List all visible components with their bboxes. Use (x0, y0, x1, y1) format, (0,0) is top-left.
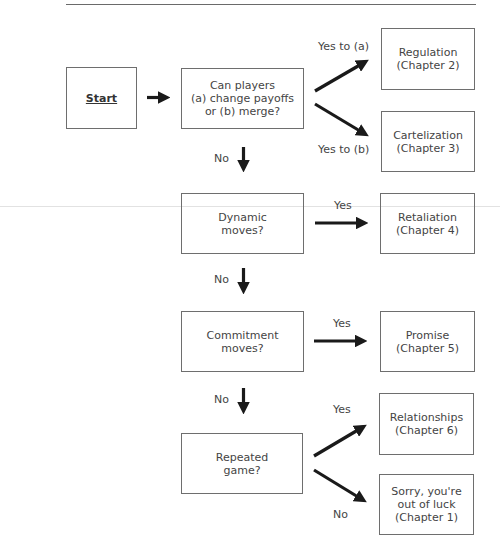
edge-label-yes-commitment: Yes (333, 317, 351, 330)
edge-label-no-2: No (214, 273, 229, 286)
relationships-label: Relationships (Chapter 6) (390, 411, 463, 437)
edge-label-yes-dynamic: Yes (334, 199, 352, 212)
out-of-luck-node: Sorry, you're out of luck (Chapter 1) (379, 474, 474, 535)
promise-node: Promise (Chapter 5) (380, 311, 475, 372)
relationships-node: Relationships (Chapter 6) (379, 393, 474, 455)
cartelization-label: Cartelization (Chapter 3) (393, 129, 463, 155)
edge-label-no-1: No (214, 152, 229, 165)
arrow-no-repeated (314, 470, 363, 500)
edge-label-yes-repeated: Yes (333, 403, 351, 416)
regulation-label: Regulation (Chapter 2) (396, 46, 459, 72)
top-rule (66, 4, 476, 5)
question-dynamic-label: Dynamic moves? (218, 211, 267, 237)
edge-label-no-3: No (214, 393, 229, 406)
retaliation-node: Retaliation (Chapter 4) (380, 193, 475, 254)
question-commitment-node: Commitment moves? (181, 311, 304, 372)
question-repeated-label: Repeated game? (216, 451, 268, 477)
retaliation-label: Retaliation (Chapter 4) (396, 211, 459, 237)
question-repeated-node: Repeated game? (181, 433, 303, 494)
start-label: Start (86, 92, 117, 105)
arrow-yes-repeated (314, 427, 363, 456)
edge-label-yes-b: Yes to (b) (318, 143, 369, 156)
cartelization-node: Cartelization (Chapter 3) (381, 111, 475, 172)
question-payoffs-node: Can players (a) change payoffs or (b) me… (181, 68, 304, 129)
edge-label-no-repeated: No (333, 508, 348, 521)
edge-label-yes-a: Yes to (a) (318, 40, 369, 53)
arrow-yes-a (315, 62, 365, 91)
promise-label: Promise (Chapter 5) (396, 329, 459, 355)
regulation-node: Regulation (Chapter 2) (381, 28, 475, 90)
arrow-yes-b (315, 104, 365, 134)
out-of-luck-label: Sorry, you're out of luck (Chapter 1) (391, 485, 461, 524)
question-payoffs-label: Can players (a) change payoffs or (b) me… (191, 79, 294, 118)
question-commitment-label: Commitment moves? (207, 329, 279, 355)
start-node: Start (66, 67, 137, 129)
question-dynamic-node: Dynamic moves? (181, 193, 304, 254)
